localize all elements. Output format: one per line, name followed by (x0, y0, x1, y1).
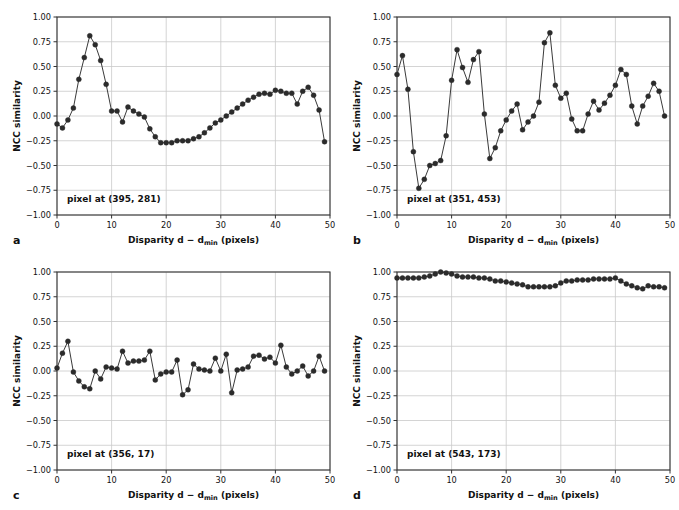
svg-text:−1.00: −1.00 (26, 210, 51, 220)
svg-text:0.50: 0.50 (373, 62, 391, 72)
svg-text:20: 20 (501, 475, 511, 485)
svg-text:1.00: 1.00 (373, 12, 391, 22)
svg-text:−0.75: −0.75 (26, 440, 51, 450)
svg-text:NCC similarity: NCC similarity (352, 80, 362, 152)
svg-text:0.00: 0.00 (33, 111, 51, 121)
panel-c: 1.000.750.500.250.00−0.25−0.50−0.75−1.00… (0, 255, 339, 510)
svg-text:Disparity d − dmin (pixels): Disparity d − dmin (pixels) (468, 490, 599, 502)
svg-text:Disparity d − dmin (pixels): Disparity d − dmin (pixels) (128, 235, 259, 247)
svg-text:30: 30 (216, 475, 226, 485)
panel-d-plot: 1.000.750.500.250.00−0.25−0.50−0.75−1.00… (340, 255, 679, 510)
svg-text:−0.25: −0.25 (26, 391, 51, 401)
panel-a: 1.000.750.500.250.00−0.25−0.50−0.75−1.00… (0, 0, 339, 255)
svg-text:pixel at (395, 281): pixel at (395, 281) (67, 194, 161, 204)
svg-text:0: 0 (394, 475, 399, 485)
svg-text:−1.00: −1.00 (366, 465, 391, 475)
svg-text:40: 40 (610, 220, 620, 230)
svg-text:−0.50: −0.50 (366, 416, 391, 426)
svg-text:0: 0 (54, 475, 59, 485)
figure-root: 1.000.750.500.250.00−0.25−0.50−0.75−1.00… (0, 0, 679, 510)
svg-text:40: 40 (270, 475, 280, 485)
panel-c-letter: c (13, 489, 20, 502)
svg-text:−0.25: −0.25 (366, 391, 391, 401)
svg-text:30: 30 (216, 220, 226, 230)
panel-c-plot: 1.000.750.500.250.00−0.25−0.50−0.75−1.00… (0, 255, 339, 510)
svg-text:Disparity d − dmin (pixels): Disparity d − dmin (pixels) (468, 235, 599, 247)
svg-text:−1.00: −1.00 (366, 210, 391, 220)
panel-a-letter: a (13, 234, 20, 247)
svg-text:0.75: 0.75 (33, 37, 51, 47)
svg-text:40: 40 (610, 475, 620, 485)
svg-text:1.00: 1.00 (33, 267, 51, 277)
svg-text:NCC similarity: NCC similarity (12, 335, 22, 407)
svg-text:0.25: 0.25 (373, 341, 391, 351)
svg-text:−0.25: −0.25 (366, 136, 391, 146)
svg-text:NCC similarity: NCC similarity (352, 335, 362, 407)
svg-text:−0.75: −0.75 (366, 440, 391, 450)
svg-text:Disparity d − dmin (pixels): Disparity d − dmin (pixels) (128, 490, 259, 502)
panel-b: 1.000.750.500.250.00−0.25−0.50−0.75−1.00… (340, 0, 679, 255)
panel-b-letter: b (353, 234, 361, 247)
svg-text:1.00: 1.00 (33, 12, 51, 22)
svg-text:10: 10 (446, 220, 456, 230)
svg-text:−0.50: −0.50 (366, 161, 391, 171)
svg-text:0.75: 0.75 (33, 292, 51, 302)
svg-text:NCC similarity: NCC similarity (12, 80, 22, 152)
svg-text:20: 20 (161, 220, 171, 230)
svg-text:30: 30 (556, 220, 566, 230)
svg-text:0.00: 0.00 (373, 366, 391, 376)
svg-text:pixel at (356, 17): pixel at (356, 17) (67, 449, 154, 459)
svg-text:0.25: 0.25 (33, 86, 51, 96)
svg-text:0.50: 0.50 (373, 317, 391, 327)
svg-text:50: 50 (325, 475, 335, 485)
svg-text:0: 0 (54, 220, 59, 230)
panel-d: 1.000.750.500.250.00−0.25−0.50−0.75−1.00… (340, 255, 679, 510)
svg-text:20: 20 (501, 220, 511, 230)
svg-text:0.25: 0.25 (373, 86, 391, 96)
svg-text:−0.75: −0.75 (366, 185, 391, 195)
svg-text:50: 50 (325, 220, 335, 230)
panel-d-letter: d (353, 489, 361, 502)
svg-text:0.75: 0.75 (373, 292, 391, 302)
svg-text:−0.75: −0.75 (26, 185, 51, 195)
svg-text:10: 10 (446, 475, 456, 485)
svg-text:0.50: 0.50 (33, 317, 51, 327)
panel-a-plot: 1.000.750.500.250.00−0.25−0.50−0.75−1.00… (0, 0, 339, 255)
svg-text:20: 20 (161, 475, 171, 485)
svg-text:40: 40 (270, 220, 280, 230)
svg-text:10: 10 (106, 475, 116, 485)
svg-text:30: 30 (556, 475, 566, 485)
svg-text:−0.50: −0.50 (26, 161, 51, 171)
svg-text:0.50: 0.50 (33, 62, 51, 72)
svg-text:0.75: 0.75 (373, 37, 391, 47)
svg-text:0.00: 0.00 (373, 111, 391, 121)
svg-text:−0.25: −0.25 (26, 136, 51, 146)
svg-text:0.25: 0.25 (33, 341, 51, 351)
svg-text:0: 0 (394, 220, 399, 230)
svg-text:10: 10 (106, 220, 116, 230)
svg-text:pixel at (543, 173): pixel at (543, 173) (407, 449, 501, 459)
svg-text:1.00: 1.00 (373, 267, 391, 277)
svg-text:0.00: 0.00 (33, 366, 51, 376)
svg-text:−0.50: −0.50 (26, 416, 51, 426)
panel-b-plot: 1.000.750.500.250.00−0.25−0.50−0.75−1.00… (340, 0, 679, 255)
svg-text:−1.00: −1.00 (26, 465, 51, 475)
svg-text:pixel at (351, 453): pixel at (351, 453) (407, 194, 501, 204)
svg-text:50: 50 (665, 220, 675, 230)
svg-text:50: 50 (665, 475, 675, 485)
